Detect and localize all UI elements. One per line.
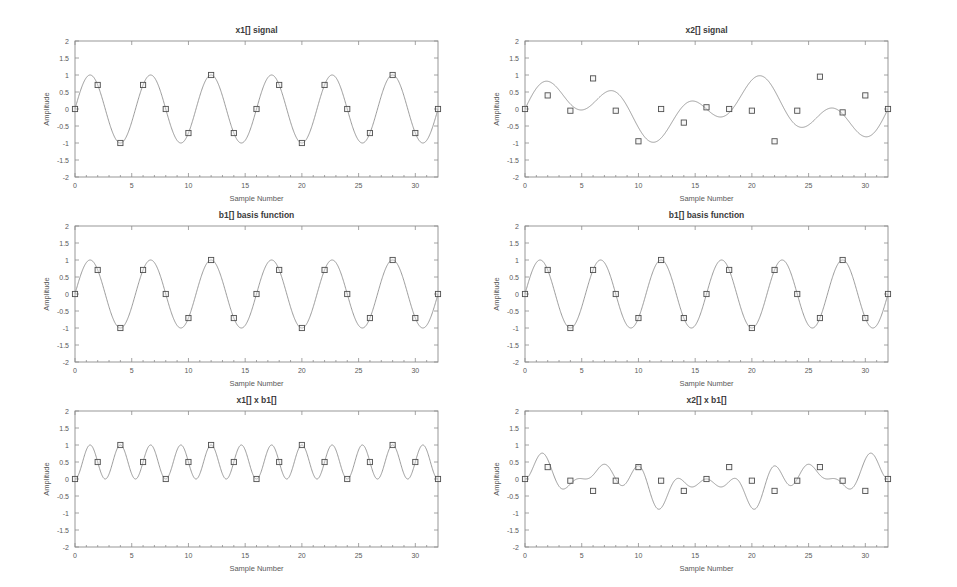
data-point-marker [140, 459, 145, 464]
data-point-marker [322, 267, 327, 272]
chart-title: b1[] basis function [219, 210, 295, 220]
data-point-marker [749, 325, 754, 330]
data-point-marker [636, 139, 641, 144]
x-tick-label: 15 [241, 182, 249, 189]
data-point-marker [681, 120, 686, 125]
data-point-marker [522, 476, 527, 481]
data-point-marker [522, 291, 527, 296]
x-tick-label: 5 [580, 367, 584, 374]
y-tick-label: 2 [515, 223, 519, 230]
y-tick-label: -2 [63, 544, 69, 551]
y-axis-label: Amplitude [42, 92, 51, 125]
data-point-marker [299, 140, 304, 145]
data-point-marker [186, 130, 191, 135]
data-point-marker [186, 315, 191, 320]
y-tick-label: 1.5 [59, 425, 69, 432]
chart-title: b1[] basis function [669, 210, 745, 220]
data-point-marker [345, 106, 350, 111]
y-tick-label: -0.5 [507, 123, 519, 130]
data-point-marker [231, 315, 236, 320]
data-point-marker [254, 476, 259, 481]
data-point-marker [140, 267, 145, 272]
y-tick-label: 1 [65, 257, 69, 264]
data-point-marker [413, 130, 418, 135]
data-point-marker [163, 106, 168, 111]
data-point-marker [390, 72, 395, 77]
figure-canvas: x1[] signal051015202530Sample Number-2-1… [0, 0, 957, 587]
x-tick-label: 5 [130, 182, 134, 189]
x-axis-label: Sample Number [679, 564, 734, 573]
x-tick-label: 15 [691, 552, 699, 559]
data-point-marker [885, 291, 890, 296]
data-point-marker [367, 315, 372, 320]
data-point-marker [231, 459, 236, 464]
x-tick-label: 20 [298, 552, 306, 559]
x-tick-label: 30 [411, 367, 419, 374]
x-tick-label: 10 [635, 182, 643, 189]
data-point-marker [95, 82, 100, 87]
x-tick-label: 30 [861, 552, 869, 559]
y-axis-label: Amplitude [492, 277, 501, 310]
x-axis-label: Sample Number [229, 379, 284, 388]
x-tick-label: 10 [635, 552, 643, 559]
x-axis-label: Sample Number [229, 194, 284, 203]
data-point-marker [345, 476, 350, 481]
x-tick-label: 20 [748, 367, 756, 374]
x-tick-label: 20 [298, 182, 306, 189]
data-point-marker [863, 315, 868, 320]
data-point-marker [681, 315, 686, 320]
x-tick-label: 0 [73, 367, 77, 374]
y-tick-label: 2 [65, 38, 69, 45]
x-tick-label: 0 [73, 182, 77, 189]
data-point-marker [545, 465, 550, 470]
x-tick-label: 15 [691, 182, 699, 189]
chart-title: x2[] x b1[] [686, 395, 726, 405]
data-point-marker [659, 257, 664, 262]
data-point-marker [704, 291, 709, 296]
x-axis: 051015202530 [73, 226, 427, 374]
y-axis: -2-1.5-1-0.500.511.52 [57, 38, 438, 181]
y-tick-label: -2 [513, 174, 519, 181]
x-axis-label: Sample Number [679, 194, 734, 203]
y-tick-label: 0.5 [509, 274, 519, 281]
x-tick-label: 5 [580, 552, 584, 559]
data-point-marker [636, 465, 641, 470]
data-point-marker [749, 478, 754, 483]
y-tick-label: -1 [63, 510, 69, 517]
data-point-marker [817, 74, 822, 79]
data-point-marker [345, 291, 350, 296]
data-point-marker [590, 76, 595, 81]
y-axis-label: Amplitude [42, 462, 51, 495]
data-point-marker [277, 267, 282, 272]
data-point-marker [231, 130, 236, 135]
data-point-marker [613, 478, 618, 483]
y-tick-label: 0.5 [509, 89, 519, 96]
y-tick-label: 0.5 [59, 89, 69, 96]
y-tick-label: 2 [515, 408, 519, 415]
x-tick-label: 10 [635, 367, 643, 374]
data-point-marker [659, 478, 664, 483]
y-tick-label: 1.5 [509, 55, 519, 62]
data-point-marker [772, 139, 777, 144]
y-tick-label: 1.5 [509, 240, 519, 247]
data-point-marker [299, 442, 304, 447]
y-tick-label: 1 [515, 72, 519, 79]
chart-panel-x2-times-b1: x2[] x b1[]051015202530Sample Number-2-1… [485, 391, 902, 581]
x-tick-label: 5 [580, 182, 584, 189]
x-axis: 051015202530 [523, 41, 877, 189]
data-curve [75, 445, 438, 479]
y-axis: -2-1.5-1-0.500.511.52 [57, 223, 438, 366]
x-tick-label: 25 [355, 552, 363, 559]
y-tick-label: -0.5 [507, 308, 519, 315]
x-tick-label: 5 [130, 552, 134, 559]
data-point-marker [299, 325, 304, 330]
data-point-marker [413, 315, 418, 320]
data-point-marker [772, 488, 777, 493]
y-tick-label: 0 [65, 476, 69, 483]
y-tick-label: -1.5 [57, 342, 69, 349]
data-point-marker [613, 108, 618, 113]
data-point-marker [727, 465, 732, 470]
data-point-marker [795, 108, 800, 113]
data-point-marker [636, 315, 641, 320]
x-tick-label: 20 [748, 182, 756, 189]
